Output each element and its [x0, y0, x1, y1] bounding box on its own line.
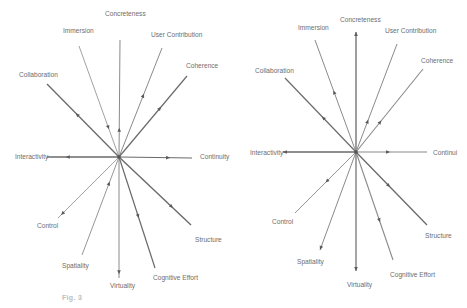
axis-label: Structure [195, 236, 222, 243]
axis-coherence: Coherence [356, 57, 454, 152]
axis-spatiality: Spatiality [297, 152, 356, 266]
arrowhead-icon [386, 150, 390, 154]
axis-label: Interactivity [15, 153, 49, 161]
axis-continuity: Continuity [119, 153, 230, 161]
axis-interactivity: Interactivity [250, 149, 356, 157]
axis-label: Spatiality [297, 258, 324, 266]
axis-virtuality: Virtuality [110, 157, 136, 290]
axis-label: Immersion [63, 27, 94, 34]
axis-label: Coherence [186, 62, 219, 69]
axis-label: Interactivity [250, 149, 284, 157]
axis-label: Concreteness [105, 10, 146, 17]
arrowhead-icon [354, 267, 358, 271]
arrowhead-icon [377, 218, 380, 222]
axis-line [356, 152, 393, 260]
axis-line [119, 76, 187, 157]
arrowhead-icon [320, 246, 323, 250]
axis-label: User Contribution [151, 31, 203, 38]
axis-label: Continuity [200, 153, 230, 161]
axis-line [356, 44, 397, 152]
axis-concreteness: Concreteness [340, 16, 381, 152]
axis-line [119, 40, 120, 157]
axis-label: Control [272, 218, 294, 225]
axis-line [119, 157, 192, 158]
axis-control: Control [272, 152, 356, 225]
axis-label: Spatiality [62, 262, 89, 270]
axis-label: Virtuality [347, 281, 373, 289]
arrowhead-icon [106, 125, 109, 129]
arrowhead-icon [354, 32, 358, 36]
axis-user-contribution: User Contribution [119, 31, 203, 157]
axis-control: Control [37, 157, 119, 229]
arrowhead-icon [117, 270, 121, 274]
axis-line [356, 69, 423, 152]
axis-line [82, 157, 119, 255]
figure-caption: Fig. 3 [62, 294, 82, 301]
arrowhead-icon [283, 150, 287, 154]
axis-line [315, 40, 356, 152]
axis-line [79, 46, 119, 157]
axis-coherence: Coherence [119, 62, 219, 157]
axis-label: Virtuality [110, 282, 136, 290]
axis-immersion: Immersion [298, 24, 356, 152]
axis-label: Collaboration [19, 71, 58, 78]
axis-line [47, 84, 119, 157]
axis-interactivity: Interactivity [15, 153, 119, 161]
axis-label: Coherence [421, 57, 454, 64]
axis-label: Cognitive Effort [390, 271, 435, 279]
axis-label: Concreteness [340, 16, 381, 23]
axis-line [320, 152, 356, 250]
axis-line [356, 152, 427, 225]
arrowhead-icon [117, 128, 121, 132]
axis-cognitive-effort: Cognitive Effort [356, 152, 435, 279]
axis-spatiality: Spatiality [62, 157, 119, 270]
axis-line [58, 157, 119, 218]
axis-label: Immersion [298, 24, 329, 31]
arrowhead-icon [136, 214, 139, 218]
axis-structure: Structure [119, 157, 222, 243]
axis-line [285, 78, 356, 152]
axis-label: Collaboration [255, 67, 294, 74]
axis-user-contribution: User Contribution [356, 27, 437, 152]
star-diagrams-canvas: ConcretenessImmersionUser ContributionCo… [0, 0, 467, 308]
arrowhead-icon [166, 156, 170, 160]
axis-virtuality: Virtuality [347, 152, 373, 289]
axis-label: Cognitive Effort [153, 274, 198, 282]
center-point [117, 155, 121, 159]
axis-cognitive-effort: Cognitive Effort [119, 157, 198, 282]
axis-label: Control [37, 222, 59, 229]
arrowhead-icon [107, 182, 110, 186]
star-diagram-left: ConcretenessImmersionUser ContributionCo… [15, 10, 230, 290]
center-point [354, 150, 358, 154]
star-diagram-right: ConcretenessImmersionUser ContributionCo… [250, 16, 458, 289]
axis-label: User Contribution [385, 27, 437, 34]
axis-line [119, 48, 162, 157]
axis-label: Continui [433, 149, 458, 156]
arrowhead-icon [333, 90, 336, 94]
axis-immersion: Immersion [63, 27, 119, 157]
axis-continui: Continui [356, 149, 458, 156]
axis-label: Structure [425, 232, 452, 239]
caption-prefix: Fig. 3 [62, 294, 82, 301]
axis-collaboration: Collaboration [19, 71, 119, 157]
arrowhead-icon [365, 120, 368, 124]
arrowhead-icon [66, 155, 70, 159]
